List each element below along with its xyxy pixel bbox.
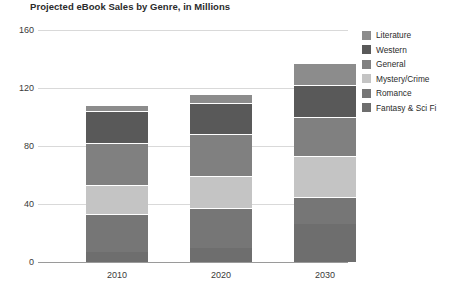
legend-item[interactable]: Western xyxy=(362,43,448,58)
bar-segment[interactable] xyxy=(86,252,148,262)
bar-segment[interactable] xyxy=(294,224,356,262)
legend-item-label: Mystery/Crime xyxy=(376,75,429,83)
bar-segment[interactable] xyxy=(294,63,356,85)
legend-item-label: Western xyxy=(376,46,407,54)
gridline-0 xyxy=(38,262,348,263)
legend-swatch-icon xyxy=(362,45,371,54)
chart-container: Projected eBook Sales by Genre, in Milli… xyxy=(0,0,449,294)
bar-segment[interactable] xyxy=(294,85,356,117)
plot-area xyxy=(38,30,348,262)
legend-swatch-icon xyxy=(362,74,371,83)
legend-item[interactable]: Fantasy & Sci Fi xyxy=(362,101,448,116)
bar-segment[interactable] xyxy=(86,111,148,143)
bar-segment[interactable] xyxy=(190,208,252,247)
legend-item-label: General xyxy=(376,60,406,68)
bar-segment[interactable] xyxy=(190,134,252,176)
bar-2030[interactable] xyxy=(294,63,356,262)
legend-swatch-icon xyxy=(362,31,371,40)
x-tick-label-2010: 2010 xyxy=(77,271,157,280)
legend-swatch-icon xyxy=(362,103,371,112)
legend-item[interactable]: Mystery/Crime xyxy=(362,72,448,87)
legend-item[interactable]: General xyxy=(362,57,448,72)
y-axis-tick-labels: 04080120160 xyxy=(0,30,34,262)
bar-segment[interactable] xyxy=(190,176,252,208)
x-tick-label-2030: 2030 xyxy=(285,271,365,280)
chart-title: Projected eBook Sales by Genre, in Milli… xyxy=(30,1,230,12)
legend-swatch-icon xyxy=(362,60,371,69)
bar-segment[interactable] xyxy=(294,156,356,197)
y-tick-label-120: 120 xyxy=(8,84,34,93)
bar-segment[interactable] xyxy=(86,214,148,252)
legend-item[interactable]: Literature xyxy=(362,28,448,43)
bar-segment[interactable] xyxy=(294,117,356,156)
y-tick-label-40: 40 xyxy=(8,200,34,209)
x-tick-label-2020: 2020 xyxy=(181,271,261,280)
y-tick-label-80: 80 xyxy=(8,142,34,151)
legend-item[interactable]: Romance xyxy=(362,86,448,101)
bar-segment[interactable] xyxy=(190,94,252,103)
legend-item-label: Fantasy & Sci Fi xyxy=(376,104,436,112)
y-tick-label-0: 0 xyxy=(8,258,34,267)
bar-segment[interactable] xyxy=(190,248,252,263)
bar-2020[interactable] xyxy=(190,94,252,262)
gridline-160 xyxy=(38,30,348,31)
legend-item-label: Literature xyxy=(376,31,411,39)
bar-segment[interactable] xyxy=(190,103,252,135)
bar-segment[interactable] xyxy=(86,143,148,185)
chart-legend: LiteratureWesternGeneralMystery/CrimeRom… xyxy=(362,28,448,115)
legend-item-label: Romance xyxy=(376,89,412,97)
bar-2010[interactable] xyxy=(86,105,148,262)
bar-segment[interactable] xyxy=(86,185,148,214)
bar-segment[interactable] xyxy=(294,197,356,225)
bar-segment[interactable] xyxy=(86,105,148,111)
y-tick-label-160: 160 xyxy=(8,26,34,35)
legend-swatch-icon xyxy=(362,89,371,98)
